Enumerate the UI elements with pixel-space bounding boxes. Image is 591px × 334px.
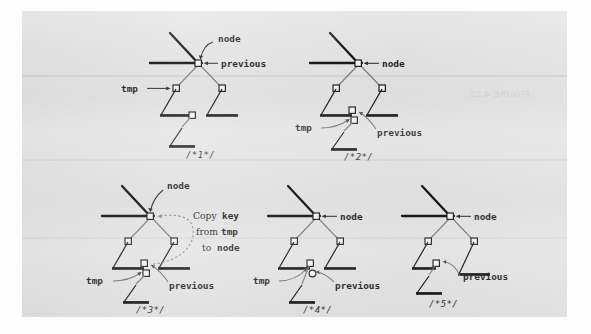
- subtree-triangle: [417, 276, 441, 293]
- figure-page: FIGURE 4.22: [0, 0, 591, 334]
- label-node: node: [474, 211, 497, 222]
- panel-5-caption: /*5*/: [429, 299, 458, 309]
- label-previous: previous: [463, 271, 508, 282]
- scanned-paper: FIGURE 4.22: [22, 11, 567, 317]
- subtree-triangle: [413, 242, 435, 268]
- tree-node-previous: [433, 260, 439, 266]
- tree-node-right: [471, 238, 477, 244]
- node-pointer-arrowhead: [456, 214, 460, 218]
- previous-pointer-arrowhead: [443, 260, 447, 264]
- tree-node-left: [425, 238, 431, 244]
- tree-node-root: [447, 213, 453, 219]
- panel-5-diagram: node previous /*5*/: [22, 11, 567, 317]
- parent-stub-line: [422, 186, 450, 216]
- subtree-triangle: [459, 242, 489, 274]
- previous-pointer-leader: [444, 262, 460, 277]
